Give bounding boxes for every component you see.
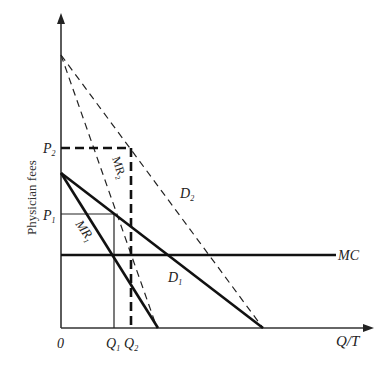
mr2-label: MR2 <box>107 155 129 182</box>
p2-label: P2 <box>42 141 56 158</box>
x-axis-arrow-icon <box>363 324 374 332</box>
mr2-curve <box>61 55 157 328</box>
origin-label: 0 <box>57 336 64 351</box>
d2-curve <box>61 55 263 328</box>
y-axis-arrow-icon <box>57 13 65 24</box>
mr1-curve <box>61 173 158 328</box>
q1-label: Q1 <box>106 336 120 353</box>
d1-curve <box>61 173 263 328</box>
y-axis-label: Physician fees <box>24 160 39 235</box>
q2-label: Q2 <box>124 336 138 353</box>
d2-label: D2 <box>179 186 194 203</box>
d1-label: D1 <box>167 270 182 287</box>
demand-shift-diagram: Physician fees P2 P1 0 Q1 Q2 Q/T MC D1 D… <box>0 0 385 366</box>
x-axis-label: Q/T <box>336 333 361 349</box>
mr1-label: MR1 <box>70 216 97 245</box>
mc-label: MC <box>337 248 360 263</box>
p1-label: P1 <box>42 208 56 225</box>
